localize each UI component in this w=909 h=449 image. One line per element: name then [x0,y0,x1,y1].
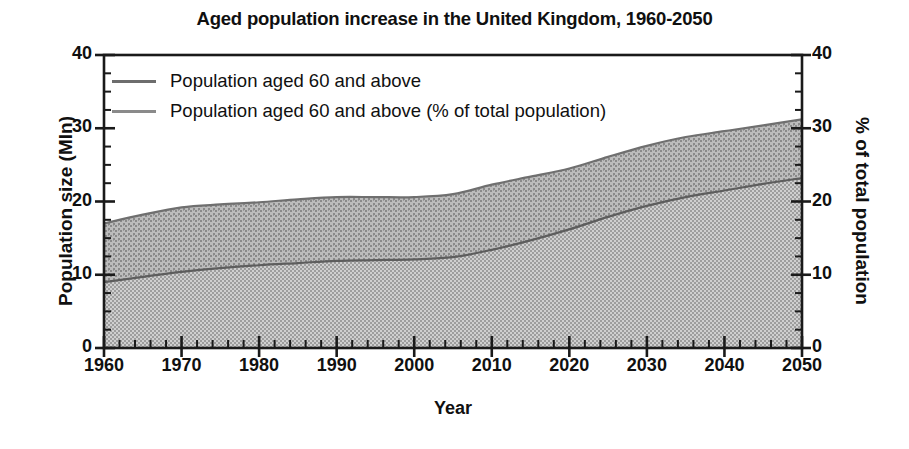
y-axis-left-tick-0: 0 [32,336,92,357]
x-axis-tick-2040: 2040 [684,355,764,376]
x-axis-tick-1970: 1970 [142,355,222,376]
legend-line-icon-population [112,80,156,83]
y-axis-left-tick-40: 40 [32,43,92,64]
legend-label-percent: Population aged 60 and above (% of total… [170,100,606,122]
x-axis-tick-2000: 2000 [374,355,454,376]
legend-label-population: Population aged 60 and above [170,70,421,92]
x-axis-tick-2020: 2020 [529,355,609,376]
y-axis-right-tick-30: 30 [812,116,872,137]
y-axis-right-tick-20: 20 [812,190,872,211]
chart-legend: Population aged 60 and above Population … [112,66,606,126]
y-axis-right-tick-10: 10 [812,263,872,284]
legend-line-icon-percent [112,110,156,113]
chart-figure: Aged population increase in the United K… [0,0,909,449]
y-axis-left-tick-20: 20 [32,190,92,211]
x-axis-tick-2030: 2030 [607,355,687,376]
x-axis-tick-1980: 1980 [219,355,299,376]
legend-item-percent: Population aged 60 and above (% of total… [112,96,606,126]
x-axis-tick-2050: 2050 [762,355,842,376]
legend-item-population: Population aged 60 and above [112,66,606,96]
y-axis-left-tick-30: 30 [32,116,92,137]
x-axis-tick-1990: 1990 [297,355,377,376]
y-axis-left-tick-10: 10 [32,263,92,284]
y-axis-right-tick-40: 40 [812,43,872,64]
x-axis-tick-2010: 2010 [452,355,532,376]
y-axis-right-tick-0: 0 [812,336,872,357]
x-axis-tick-1960: 1960 [64,355,144,376]
